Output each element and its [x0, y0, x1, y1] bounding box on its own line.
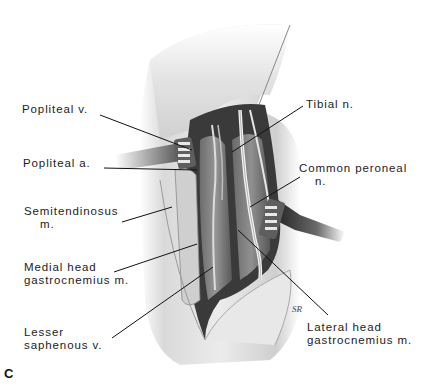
label-common-peroneal-n: Common peroneal n. [299, 162, 407, 188]
label-popliteal-v: Popliteal v. [22, 103, 88, 116]
label-text: Popliteal v. [22, 103, 88, 115]
label-text: Medial head [24, 261, 129, 274]
label-text: gastrocnemius m. [24, 274, 129, 287]
label-lateral-head-gastrocnemius-m: Lateral head gastrocnemius m. [307, 321, 412, 347]
artist-signature: SR [292, 304, 303, 314]
label-text: Tibial n. [306, 98, 354, 110]
label-semitendinosus-m: Semitendinosus m. [24, 205, 118, 231]
label-popliteal-a: Popliteal a. [23, 157, 91, 170]
label-tibial-n: Tibial n. [306, 98, 354, 111]
label-text: Common peroneal [299, 162, 407, 175]
label-text: gastrocnemius m. [307, 334, 412, 347]
label-text: Lesser [24, 326, 102, 339]
label-medial-head-gastrocnemius-m: Medial head gastrocnemius m. [24, 261, 129, 287]
label-text: n. [299, 175, 407, 188]
label-lesser-saphenous-v: Lesser saphenous v. [24, 326, 102, 352]
panel-letter: C [4, 366, 13, 381]
label-text: Popliteal a. [23, 157, 91, 169]
label-text: m. [24, 218, 118, 231]
right-retractor [258, 198, 345, 242]
label-text: Lateral head [307, 321, 412, 334]
label-text: Semitendinosus [24, 205, 118, 218]
label-text: saphenous v. [24, 339, 102, 352]
